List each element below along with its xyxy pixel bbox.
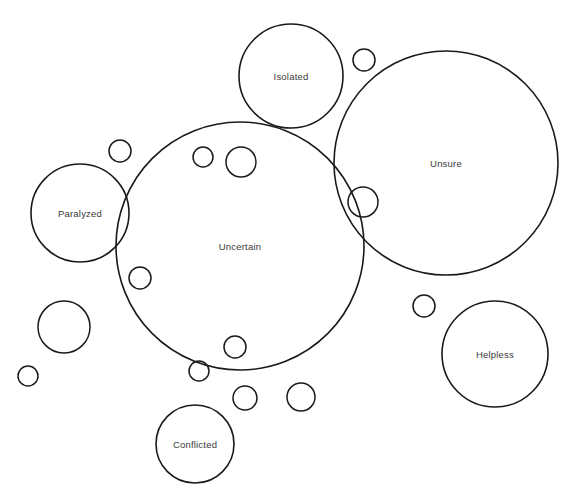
bubble-small-4[interactable] (353, 49, 375, 71)
bubble-small-7[interactable] (38, 301, 90, 353)
labeled-bubble-group: IsolatedUnsureParalyzedUncertainHelpless… (31, 24, 558, 483)
bubble-small-8[interactable] (18, 366, 38, 386)
bottom-edge-artifact (0, 494, 180, 504)
bubble-small-11[interactable] (233, 386, 257, 410)
bubble-small-1[interactable] (109, 140, 131, 162)
bubble-small-12[interactable] (287, 383, 315, 411)
bubble-paralyzed[interactable]: Paralyzed (31, 164, 129, 262)
bubble-unsure[interactable]: Unsure (334, 51, 558, 275)
bubble-label-helpless: Helpless (476, 349, 514, 360)
bubble-isolated[interactable]: Isolated (239, 24, 343, 128)
diagram-canvas: IsolatedUnsureParalyzedUncertainHelpless… (0, 0, 577, 504)
bubble-conflicted[interactable]: Conflicted (156, 405, 234, 483)
bubble-label-conflicted: Conflicted (173, 439, 217, 450)
bubble-helpless[interactable]: Helpless (442, 301, 548, 407)
bubble-label-paralyzed: Paralyzed (58, 208, 102, 219)
bubble-small-13[interactable] (413, 295, 435, 317)
bubble-uncertain[interactable]: Uncertain (116, 122, 364, 370)
bubble-label-isolated: Isolated (274, 71, 309, 82)
bubble-label-uncertain: Uncertain (219, 241, 261, 252)
bubble-label-unsure: Unsure (430, 158, 462, 169)
bubble-diagram-svg: IsolatedUnsureParalyzedUncertainHelpless… (0, 0, 577, 504)
